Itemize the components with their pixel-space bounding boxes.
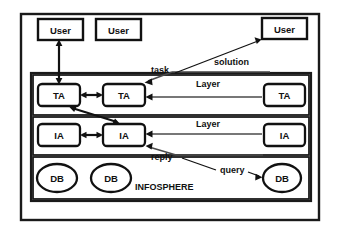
user-label-1: User	[50, 25, 71, 36]
ia-label-3: IA	[280, 130, 290, 141]
infosphere-label: INFOSPHERE	[135, 182, 194, 192]
db-label-2: DB	[104, 173, 118, 184]
database-node-3[interactable]: DB	[263, 164, 301, 192]
user-node-3[interactable]: User	[262, 18, 307, 39]
task-agent-node-2[interactable]: TA	[103, 84, 145, 106]
diagram-canvas: User User User TA TA TA Layer IA	[0, 0, 339, 235]
task-edge-label: task	[151, 65, 170, 75]
user-label-2: User	[108, 25, 129, 36]
ta-label-3: TA	[279, 90, 291, 101]
info-agent-node-1[interactable]: IA	[38, 124, 80, 146]
ta-label-1: TA	[53, 90, 65, 101]
db-label-3: DB	[275, 173, 289, 184]
task-agent-node-3[interactable]: TA	[264, 84, 305, 106]
user-node-2[interactable]: User	[96, 19, 141, 40]
ta-label-2: TA	[118, 90, 130, 101]
user-label-3: User	[274, 24, 295, 35]
database-node-2[interactable]: DB	[91, 164, 131, 192]
user-node-1[interactable]: User	[38, 19, 83, 40]
infosphere-architecture-diagram: User User User TA TA TA Layer IA	[0, 0, 339, 235]
task-layer-label: Layer	[196, 79, 221, 89]
ia-label-1: IA	[54, 130, 64, 141]
reply-edge-label: reply	[151, 152, 173, 162]
query-edge-label: query	[220, 165, 245, 175]
info-agent-node-3[interactable]: IA	[264, 124, 305, 146]
info-agent-node-2[interactable]: IA	[103, 124, 145, 146]
task-agent-node-1[interactable]: TA	[38, 84, 80, 106]
info-layer-label: Layer	[196, 119, 221, 129]
ia-label-2: IA	[119, 130, 129, 141]
db-label-1: DB	[50, 173, 64, 184]
database-node-1[interactable]: DB	[37, 164, 77, 192]
solution-edge-label: solution	[214, 57, 249, 67]
